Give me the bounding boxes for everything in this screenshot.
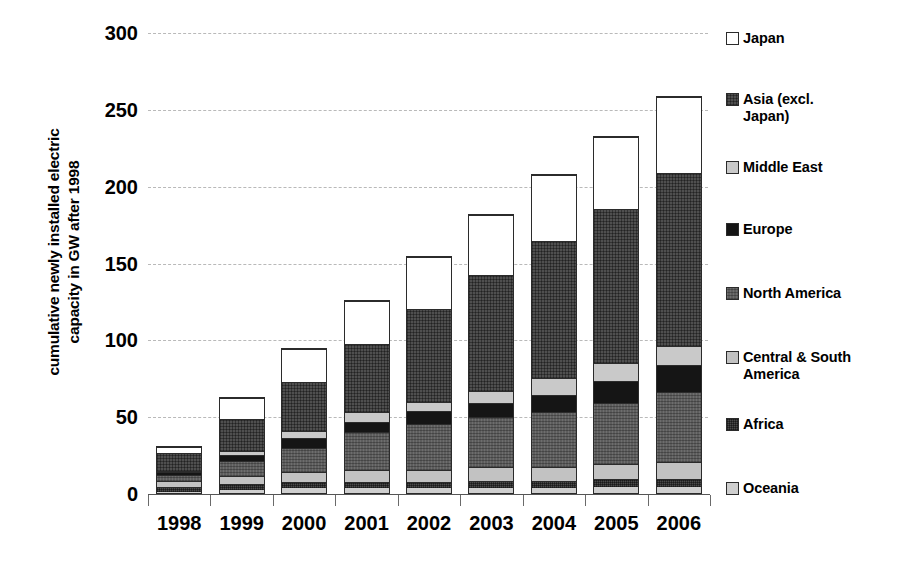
segment-asia-excl-japan-2004 (532, 241, 576, 378)
stacked-bar-2006[interactable] (656, 96, 702, 494)
segment-japan-2004 (532, 175, 576, 241)
y-axis-tick-labels: 050100150200250300 (76, 33, 138, 494)
segment-north-america-1999 (220, 461, 264, 476)
legend-label-north-america: North America (743, 285, 841, 302)
segment-north-america-2003 (469, 417, 513, 467)
x-tick-3 (335, 495, 336, 506)
stacked-bar-2002[interactable] (406, 256, 452, 494)
legend-item-oceania[interactable]: Oceania (726, 480, 799, 497)
segment-middle-east-2003 (469, 391, 513, 403)
segment-europe-2001 (345, 422, 389, 433)
segment-europe-2000 (282, 438, 326, 447)
legend-swatch-europe-icon (726, 223, 739, 236)
legend-label-japan: Japan (743, 30, 784, 47)
segment-asia-excl-japan-1998 (157, 453, 201, 471)
legend-item-europe[interactable]: Europe (726, 221, 792, 238)
segment-central-south-america-2006 (657, 462, 701, 479)
y-tick-label-50: 50 (84, 407, 138, 427)
x-tick-4 (398, 495, 399, 506)
legend-item-asia-excl-japan[interactable]: Asia (excl. Japan) (726, 91, 814, 125)
segment-north-america-2001 (345, 432, 389, 470)
segment-oceania-2000 (282, 488, 326, 493)
legend-label-africa: Africa (743, 416, 784, 433)
legend-swatch-middle-east-icon (726, 161, 739, 174)
y-tick-label-200: 200 (84, 177, 138, 197)
segment-middle-east-2002 (407, 402, 451, 411)
legend-item-middle-east[interactable]: Middle East (726, 159, 822, 176)
segment-oceania-2006 (657, 487, 701, 493)
x-label-2001: 2001 (336, 513, 398, 533)
segment-middle-east-2006 (657, 346, 701, 364)
x-label-2005: 2005 (585, 513, 647, 533)
segment-central-south-america-2001 (345, 470, 389, 482)
segment-middle-east-2004 (532, 378, 576, 395)
legend-item-north-america[interactable]: North America (726, 285, 841, 302)
legend-item-japan[interactable]: Japan (726, 30, 784, 47)
segment-oceania-1998 (157, 492, 201, 493)
legend-label-central-south-america: Central & South America (743, 349, 851, 383)
stacked-bar-chart: cumulative newly installed electric capa… (0, 0, 904, 565)
stacked-bar-2000[interactable] (281, 348, 327, 494)
y-tick-label-250: 250 (84, 100, 138, 120)
stacked-bar-2003[interactable] (468, 214, 514, 494)
legend-item-central-south-america[interactable]: Central & South America (726, 349, 851, 383)
segment-japan-2005 (594, 137, 638, 209)
x-tick-5 (460, 495, 461, 506)
segment-europe-2004 (532, 395, 576, 412)
x-label-2004: 2004 (523, 513, 585, 533)
stacked-bar-2004[interactable] (531, 174, 577, 494)
segment-north-america-2000 (282, 448, 326, 472)
segment-middle-east-2001 (345, 412, 389, 421)
segment-north-america-2005 (594, 403, 638, 464)
legend-swatch-africa-icon (726, 418, 739, 431)
x-label-2003: 2003 (460, 513, 522, 533)
segment-central-south-america-2002 (407, 470, 451, 482)
segment-asia-excl-japan-2002 (407, 309, 451, 402)
segment-asia-excl-japan-1999 (220, 419, 264, 451)
segment-central-south-america-2000 (282, 472, 326, 483)
stacked-bar-1999[interactable] (219, 397, 265, 494)
segment-north-america-2006 (657, 392, 701, 462)
x-label-1999: 1999 (211, 513, 273, 533)
segment-central-south-america-2005 (594, 464, 638, 479)
segment-africa-2006 (657, 479, 701, 487)
segment-africa-2005 (594, 479, 638, 487)
segment-central-south-america-1999 (220, 476, 264, 484)
legend-label-europe: Europe (743, 221, 792, 238)
segment-oceania-2003 (469, 488, 513, 493)
x-tick-6 (523, 495, 524, 506)
segment-asia-excl-japan-2005 (594, 209, 638, 363)
segment-asia-excl-japan-2000 (282, 382, 326, 430)
legend-label-oceania: Oceania (743, 480, 799, 497)
segment-asia-excl-japan-2006 (657, 173, 701, 346)
x-tick-0 (148, 495, 149, 506)
stacked-bar-2005[interactable] (593, 136, 639, 494)
legend-swatch-asia-excl-japan-icon (726, 93, 739, 106)
segment-europe-2003 (469, 403, 513, 417)
segment-central-south-america-2004 (532, 467, 576, 481)
y-tick-label-300: 300 (84, 23, 138, 43)
segment-asia-excl-japan-2001 (345, 344, 389, 412)
segment-central-south-america-2003 (469, 467, 513, 481)
x-tick-9 (710, 495, 711, 506)
legend-item-africa[interactable]: Africa (726, 416, 784, 433)
x-tick-2 (273, 495, 274, 506)
segment-oceania-1999 (220, 490, 264, 493)
bar-series-area (148, 33, 710, 494)
x-tick-7 (585, 495, 586, 506)
segment-middle-east-2000 (282, 431, 326, 439)
x-tick-1 (210, 495, 211, 506)
stacked-bar-1998[interactable] (156, 446, 202, 494)
segment-middle-east-2005 (594, 363, 638, 381)
legend-label-asia-excl-japan: Asia (excl. Japan) (743, 91, 814, 125)
x-label-2002: 2002 (398, 513, 460, 533)
stacked-bar-2001[interactable] (344, 300, 390, 494)
x-label-2006: 2006 (648, 513, 710, 533)
y-tick-label-150: 150 (84, 254, 138, 274)
segment-africa-2003 (469, 481, 513, 489)
x-axis-ticks (148, 495, 710, 507)
legend-label-middle-east: Middle East (743, 159, 822, 176)
segment-japan-2006 (657, 97, 701, 173)
y-tick-label-100: 100 (84, 330, 138, 350)
segment-europe-2002 (407, 411, 451, 425)
